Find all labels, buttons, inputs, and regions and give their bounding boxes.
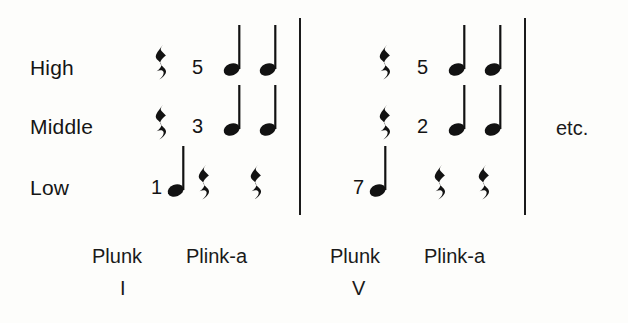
- quarter-rest-icon: [476, 164, 492, 200]
- scale-degree-number: 1: [151, 177, 162, 197]
- quarter-note-icon: [368, 146, 390, 202]
- quarter-rest-icon: [248, 164, 264, 200]
- syllable-label: Plink-a: [424, 246, 485, 266]
- voice-label-high: High: [30, 57, 74, 78]
- quarter-note-icon: [447, 85, 469, 141]
- syllable-label: Plunk: [330, 246, 380, 266]
- quarter-note-icon: [222, 85, 244, 141]
- scale-degree-number: 7: [353, 177, 364, 197]
- quarter-note-icon: [483, 85, 505, 141]
- barline: [524, 18, 526, 215]
- chord-roman-numeral: I: [120, 278, 126, 298]
- voice-label-low: Low: [30, 177, 69, 198]
- quarter-note-icon: [258, 85, 280, 141]
- quarter-note-icon: [447, 25, 469, 81]
- quarter-rest-icon: [377, 44, 393, 80]
- quarter-note-icon: [166, 146, 188, 202]
- quarter-rest-icon: [153, 104, 169, 140]
- scale-degree-number: 3: [192, 116, 203, 136]
- scale-degree-number: 5: [192, 57, 203, 77]
- quarter-rest-icon: [377, 104, 393, 140]
- quarter-note-icon: [483, 25, 505, 81]
- quarter-note-icon: [222, 25, 244, 81]
- barline: [299, 18, 301, 215]
- scale-degree-number: 5: [417, 57, 428, 77]
- continuation-label: etc.: [556, 118, 588, 138]
- syllable-label: Plink-a: [186, 246, 247, 266]
- voice-label-middle: Middle: [30, 116, 93, 137]
- quarter-rest-icon: [196, 164, 212, 200]
- scale-degree-number: 2: [417, 116, 428, 136]
- quarter-rest-icon: [432, 164, 448, 200]
- syllable-label: Plunk: [92, 246, 142, 266]
- quarter-rest-icon: [153, 44, 169, 80]
- music-notation-diagram: HighMiddleLow531527PlunkPlink-aPlunkPlin…: [0, 0, 628, 323]
- chord-roman-numeral: V: [352, 278, 365, 298]
- quarter-note-icon: [258, 25, 280, 81]
